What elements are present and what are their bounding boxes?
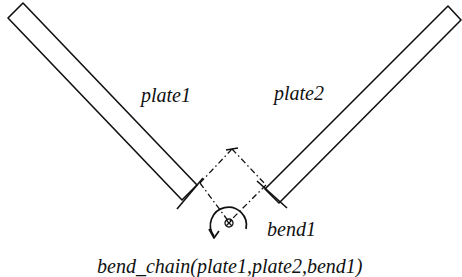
bend-apex-tick <box>226 148 238 150</box>
bend-construction-lines <box>200 149 266 222</box>
figure-caption: bend_chain(plate1,plate2,bend1) <box>97 256 363 276</box>
bend1-label: bend1 <box>267 219 316 239</box>
plate1-label: plate1 <box>141 85 191 105</box>
arrowhead-icon <box>209 229 219 238</box>
plate2-end-tick <box>257 181 287 208</box>
plate2-label: plate2 <box>274 83 324 103</box>
plate2-shape <box>265 6 461 203</box>
axis-circled-cross-icon <box>225 219 233 227</box>
plate1-end-tick <box>177 178 203 209</box>
